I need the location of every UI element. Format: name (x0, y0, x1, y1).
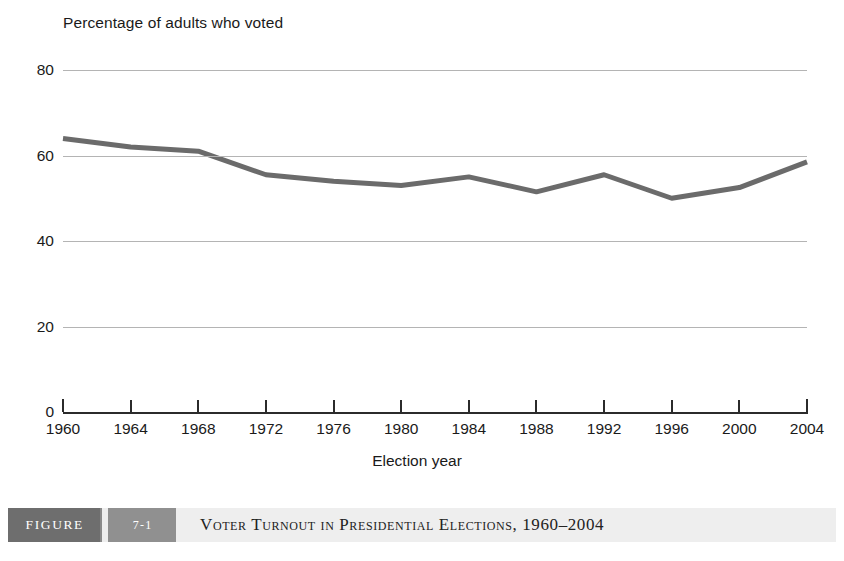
x-axis-tick (738, 400, 740, 412)
x-axis-tick (197, 400, 199, 412)
x-axis-tick (62, 399, 64, 412)
figure-caption-bar: FIGURE 7-1 Voter Turnout in Presidential… (8, 508, 836, 542)
x-axis-tick-label: 1976 (316, 420, 350, 438)
x-axis-tick-label: 1972 (249, 420, 283, 438)
caption-figure-number: 7-1 (108, 508, 176, 542)
caption-figure-label: FIGURE (8, 508, 100, 542)
x-axis-line (63, 412, 808, 414)
x-axis-tick (333, 400, 335, 412)
x-axis-tick (265, 400, 267, 412)
y-axis-tick-label: 40 (10, 232, 54, 250)
gridline-60 (63, 156, 807, 157)
x-axis-tick-label: 1988 (519, 420, 553, 438)
x-axis-tick (671, 400, 673, 412)
caption-divider (100, 508, 108, 542)
x-axis-title: Election year (0, 452, 844, 470)
y-axis-tick-label: 0 (10, 403, 54, 421)
x-axis-tick (468, 400, 470, 412)
plot-region: 0204060801960196419681972197619801984198… (0, 0, 844, 440)
x-axis-tick-label: 1964 (113, 420, 147, 438)
turnout-line-series (0, 0, 844, 440)
y-axis-tick-label: 60 (10, 147, 54, 165)
chart-area: Percentage of adults who voted 020406080… (0, 0, 844, 496)
x-axis-title-text: Election year (372, 452, 462, 470)
x-axis-tick (130, 400, 132, 412)
gridline-20 (63, 327, 807, 328)
x-axis-tick (806, 399, 808, 412)
x-axis-tick-label: 1996 (654, 420, 688, 438)
x-axis-tick-label: 1960 (46, 420, 80, 438)
x-axis-tick-label: 2004 (790, 420, 824, 438)
x-axis-tick (535, 400, 537, 412)
x-axis-tick-label: 1984 (452, 420, 486, 438)
x-axis-tick-label: 1968 (181, 420, 215, 438)
gridline-40 (63, 241, 807, 242)
gridline-80 (63, 70, 807, 71)
x-axis-tick (603, 400, 605, 412)
x-axis-tick-label: 1980 (384, 420, 418, 438)
y-axis-tick-label: 20 (10, 318, 54, 336)
x-axis-tick-label: 2000 (722, 420, 756, 438)
series-polyline (63, 138, 807, 198)
y-axis-tick-label: 80 (10, 61, 54, 79)
caption-title-text: Voter Turnout in Presidential Elections,… (176, 508, 836, 542)
x-axis-tick-label: 1992 (587, 420, 621, 438)
x-axis-tick (400, 400, 402, 412)
figure-container: Percentage of adults who voted 020406080… (0, 0, 844, 561)
